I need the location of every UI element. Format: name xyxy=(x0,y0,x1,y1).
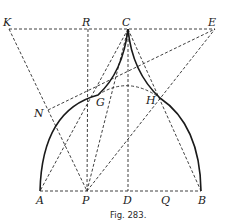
label-R: R xyxy=(81,16,90,29)
point-labels: K R C E N G H A P D Q B xyxy=(2,16,216,207)
line-P-E xyxy=(87,29,215,191)
label-P: P xyxy=(81,194,90,207)
label-E: E xyxy=(207,16,216,29)
label-G: G xyxy=(96,96,105,109)
label-N: N xyxy=(33,107,44,120)
line-P-C xyxy=(87,29,128,191)
geometric-figure: K R C E N G H A P D Q B Fig. 283. xyxy=(0,0,228,224)
label-A: A xyxy=(35,194,44,207)
line-R-P xyxy=(87,29,88,191)
label-Q: Q xyxy=(161,194,170,207)
label-C: C xyxy=(122,16,131,29)
line-C-B xyxy=(128,29,201,191)
main-curves xyxy=(40,29,201,191)
figure-caption: Fig. 283. xyxy=(110,210,146,220)
label-K: K xyxy=(2,16,12,29)
line-N-E xyxy=(48,29,215,110)
label-D: D xyxy=(122,194,132,207)
label-B: B xyxy=(197,194,206,207)
label-H: H xyxy=(145,94,156,107)
line-C-A xyxy=(40,29,128,191)
